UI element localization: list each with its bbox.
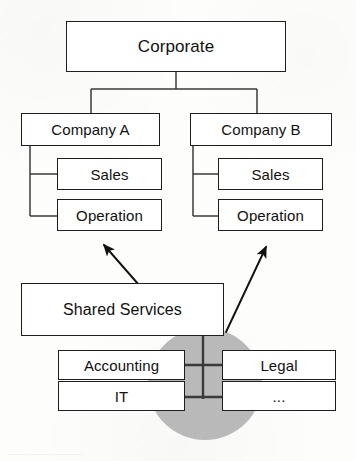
scan-bleed-text: ...................................	[8, 449, 308, 459]
node-shared-services[interactable]: Shared Services	[21, 283, 224, 336]
node-it-label: IT	[115, 388, 129, 405]
node-legal-label: Legal	[260, 357, 297, 374]
node-company-a[interactable]: Company A	[21, 113, 160, 146]
node-company-a-label: Company A	[51, 121, 129, 138]
node-sales-company-b-label: Sales	[251, 166, 289, 183]
org-chart-diagram: Corporate Company A Company B Sales Oper…	[0, 0, 356, 461]
node-more-services[interactable]: ...	[222, 381, 336, 411]
node-corporate-label: Corporate	[138, 37, 215, 57]
node-shared-services-label: Shared Services	[63, 301, 182, 319]
node-sales-company-a[interactable]: Sales	[57, 158, 162, 190]
node-more-services-label: ...	[273, 388, 286, 405]
node-company-b-label: Company B	[221, 121, 300, 138]
node-sales-company-a-label: Sales	[90, 166, 128, 183]
node-operation-company-a-label: Operation	[76, 207, 143, 224]
node-legal[interactable]: Legal	[222, 350, 336, 380]
arrow-shared-to-company-b	[226, 247, 266, 332]
node-corporate[interactable]: Corporate	[66, 21, 286, 72]
node-it[interactable]: IT	[58, 381, 185, 411]
arrow-shared-to-company-a	[104, 245, 139, 285]
node-accounting[interactable]: Accounting	[58, 350, 185, 380]
node-operation-company-a[interactable]: Operation	[57, 199, 162, 231]
node-operation-company-b-label: Operation	[237, 207, 304, 224]
node-company-b[interactable]: Company B	[190, 113, 332, 146]
node-sales-company-b[interactable]: Sales	[218, 158, 323, 190]
node-operation-company-b[interactable]: Operation	[218, 199, 323, 231]
node-accounting-label: Accounting	[84, 357, 159, 374]
